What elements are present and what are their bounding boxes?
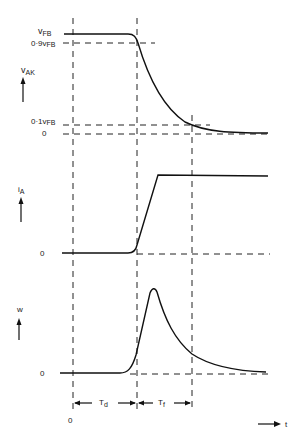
tf-left-arrowhead-icon xyxy=(138,401,144,406)
td-right-arrowhead-icon xyxy=(130,401,136,406)
tf-right-arrowhead-icon xyxy=(185,401,191,406)
ia-panel: iA 0 xyxy=(18,175,270,258)
ia-axis-label: iA xyxy=(18,185,25,195)
ia-up-arrowhead-icon xyxy=(19,197,24,204)
td-left-arrowhead-icon xyxy=(74,401,80,406)
w-panel: w 0 xyxy=(16,289,268,378)
time-origin-label: 0 xyxy=(68,416,73,425)
vak-curve xyxy=(64,34,268,133)
time-axis-label: t xyxy=(285,420,288,429)
vak-axis-label: vAK xyxy=(21,65,35,76)
vak-panel: vAK vFB 0·9vFB 0·1vFB 0 xyxy=(21,26,271,138)
w-zero-label: 0 xyxy=(40,369,45,378)
vak-zero-label: 0 xyxy=(42,129,47,138)
ia-zero-label: 0 xyxy=(40,249,45,258)
waveform-diagram: vAK vFB 0·9vFB 0·1vFB 0 iA 0 w 0 Td xyxy=(0,0,302,441)
ia-curve xyxy=(62,175,268,253)
vfb-label: vFB xyxy=(38,26,52,37)
td-label: Td xyxy=(99,398,108,408)
vak-up-arrowhead-icon xyxy=(21,77,26,84)
w-curve xyxy=(60,289,266,373)
w-up-arrowhead-icon xyxy=(17,318,22,325)
tf-label: Tf xyxy=(158,398,165,408)
vfb-10-label: 0·1vFB xyxy=(31,117,56,126)
vfb-90-label: 0·9vFB xyxy=(31,39,56,48)
time-axis-arrowhead-icon xyxy=(274,421,281,427)
tf-interval: Tf xyxy=(138,398,191,408)
td-interval: Td xyxy=(74,398,136,408)
w-axis-label: w xyxy=(16,305,23,314)
